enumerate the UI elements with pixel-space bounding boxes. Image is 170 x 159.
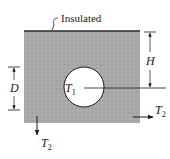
depth-dimension: D [8,67,20,110]
right-temperature-label: T2 [155,103,166,119]
diagram-svg: Insulated T1 H D T2 T2 [0,0,170,159]
height-label: H [145,54,156,68]
height-dimension: H [144,32,156,87]
diagram-canvas: Insulated T1 H D T2 T2 [0,0,170,159]
insulated-leader-line [52,18,58,30]
insulated-label: Insulated [61,12,102,24]
depth-label: D [9,81,19,95]
bottom-temperature-label: T2 [41,136,52,152]
